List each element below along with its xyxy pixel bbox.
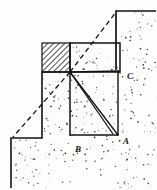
stipple-dot (24, 111, 25, 112)
stipple-tick (39, 173, 40, 174)
stipple-dot (75, 92, 76, 93)
stipple-dot (133, 188, 135, 190)
stipple-dot (96, 58, 97, 59)
stipple-dot (90, 147, 91, 148)
stipple-dot (3, 180, 4, 181)
stipple-dot (147, 163, 148, 164)
stipple-dot (3, 135, 4, 136)
stipple-dot (73, 34, 75, 36)
stipple-dot (91, 114, 92, 115)
stipple-dot (121, 36, 122, 37)
stipple-dot (80, 19, 81, 20)
stipple-dot (76, 46, 77, 47)
stipple-dot (155, 66, 156, 67)
stipple-dot (9, 59, 10, 60)
stipple-dot (21, 102, 22, 103)
stipple-dot (95, 92, 96, 93)
stipple-dot (84, 106, 86, 108)
stipple-dot (64, 99, 65, 100)
stipple-dot (9, 56, 10, 57)
stipple-dot (41, 13, 42, 14)
figure-container: ABC (0, 0, 157, 190)
stipple-dot (140, 27, 141, 28)
stipple-dot (49, 154, 50, 155)
stipple-dot (53, 100, 55, 102)
stipple-dot (40, 97, 41, 98)
stipple-tick (148, 8, 149, 9)
stipple-dot (25, 157, 26, 158)
stipple-dot (21, 61, 23, 63)
stipple-dot (7, 140, 8, 141)
stipple-dot (106, 28, 107, 29)
stipple-dot (28, 50, 29, 51)
stipple-dot (121, 153, 122, 154)
stipple-dot (6, 116, 8, 118)
stipple-dot (19, 140, 20, 141)
stipple-dot (28, 101, 29, 102)
stipple-dot (37, 125, 38, 126)
stipple-dot (32, 171, 33, 172)
stipple-dot (31, 40, 32, 41)
stipple-dot (49, 92, 50, 93)
stipple-dot (5, 151, 6, 152)
stipple-dot (106, 130, 107, 131)
stipple-dot (82, 81, 84, 83)
stipple-dot (3, 10, 4, 11)
stipple-dot (64, 161, 65, 162)
stipple-dot (102, 22, 103, 23)
stipple-dot (19, 11, 21, 13)
stipple-dot (130, 31, 131, 32)
stipple-dot (143, 164, 145, 166)
stipple-tick (134, 12, 135, 13)
stipple-dot (50, 32, 51, 33)
stipple-dot (9, 47, 10, 48)
stipple-dot (35, 145, 36, 146)
stipple-dot (130, 111, 131, 112)
stipple-dot (6, 145, 7, 146)
hatched-block (42, 43, 70, 72)
stipple-dot (7, 39, 8, 40)
stipple-dot (150, 165, 151, 166)
stipple-dot (27, 121, 29, 123)
stipple-dot (89, 61, 90, 62)
stipple-dot (8, 39, 9, 40)
stipple-dot (61, 129, 62, 130)
stipple-dot (73, 154, 75, 156)
stipple-dot (109, 115, 111, 117)
stipple-dot (46, 118, 48, 120)
stipple-dot (63, 154, 64, 155)
stipple-dot (9, 32, 11, 34)
stipple-dot (30, 16, 31, 17)
stipple-dot (36, 142, 37, 143)
stipple-dot (19, 45, 21, 47)
stipple-dot (8, 121, 9, 122)
stipple-dot (14, 147, 15, 148)
stipple-dot (125, 37, 127, 39)
stipple-tick (15, 34, 16, 35)
stipple-dot (8, 115, 10, 117)
stipple-dot (21, 133, 23, 135)
stipple-dot (143, 178, 145, 180)
stipple-dot (37, 188, 39, 190)
stipple-dot (50, 106, 52, 108)
stipple-dot (134, 115, 135, 116)
stipple-dot (128, 183, 129, 184)
stipple-dot (11, 121, 12, 122)
stipple-dot (102, 145, 104, 147)
stipple-dot (108, 26, 109, 27)
stipple-dot (122, 50, 123, 51)
stipple-dot (40, 26, 42, 28)
stipple-dot (50, 32, 52, 34)
stipple-dot (33, 67, 34, 68)
stipple-dot (22, 110, 23, 111)
stipple-dot (79, 55, 80, 56)
stipple-dot (124, 110, 125, 111)
stipple-dot (34, 63, 36, 65)
stipple-dot (81, 129, 82, 130)
stipple-dot (28, 182, 30, 184)
stipple-dot (105, 21, 106, 22)
stipple-dot (14, 69, 16, 71)
stipple-dot (103, 75, 104, 76)
stipple-dot (109, 29, 110, 30)
stipple-dot (119, 187, 120, 188)
